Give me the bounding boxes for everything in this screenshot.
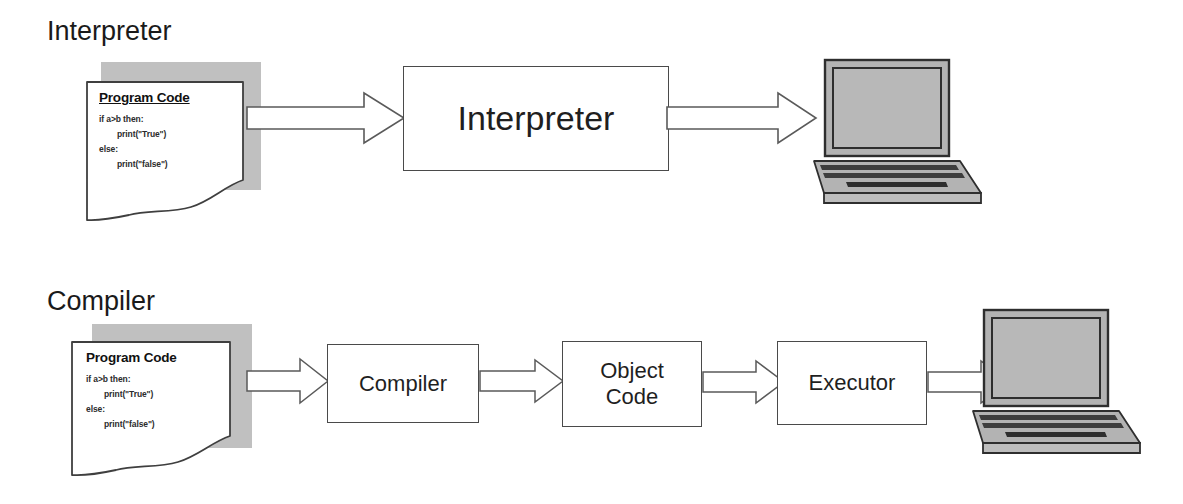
arrow-interpreter-to-laptop (666, 92, 818, 144)
process-box-executor[interactable]: Executor (777, 341, 927, 425)
program-code-text-compiler: Program Code if a>b then: print("True") … (86, 350, 177, 432)
arrow-compiler-to-object-code (479, 359, 565, 403)
process-box-object-code-label-line2: Code (606, 384, 659, 410)
program-code-text-interpreter: Program Code if a>b then: print("True") … (99, 90, 190, 172)
section-title-compiler: Compiler (47, 286, 155, 317)
code-line-1: if a>b then: (99, 112, 190, 127)
program-code-title: Program Code (86, 350, 177, 365)
process-box-object-code[interactable]: Object Code (562, 341, 702, 427)
laptop-icon-compiler (965, 308, 1155, 458)
section-title-interpreter: Interpreter (47, 16, 172, 47)
laptop-icon-interpreter (806, 58, 996, 213)
program-code-document-compiler: Program Code if a>b then: print("True") … (70, 322, 265, 482)
diagram-canvas: Interpreter Program Code if a>b then: pr… (0, 0, 1183, 504)
code-line-3: else: (86, 402, 177, 417)
code-line-1: if a>b then: (86, 372, 177, 387)
code-line-4: print("false") (86, 417, 177, 432)
arrow-object-code-to-executor (702, 360, 786, 404)
process-box-interpreter[interactable]: Interpreter (403, 66, 669, 171)
code-line-2: print("True") (99, 127, 190, 142)
process-box-object-code-label-line1: Object (600, 358, 664, 384)
code-line-4: print("false") (99, 157, 190, 172)
arrow-code-to-interpreter (246, 92, 406, 144)
process-box-executor-label: Executor (809, 370, 896, 396)
arrow-code-to-compiler (246, 358, 330, 404)
process-box-compiler-label: Compiler (359, 371, 447, 397)
process-box-interpreter-label: Interpreter (458, 98, 615, 138)
program-code-title: Program Code (99, 90, 190, 105)
process-box-compiler[interactable]: Compiler (327, 344, 479, 423)
code-line-3: else: (99, 142, 190, 157)
code-line-2: print("True") (86, 387, 177, 402)
